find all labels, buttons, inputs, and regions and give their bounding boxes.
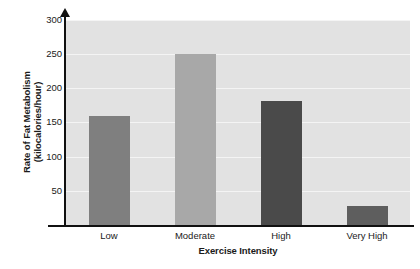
x-tick-label-very-high: Very High (324, 230, 410, 242)
bar-high[interactable] (261, 101, 302, 225)
x-axis-tick-labels: Low Moderate High Very High (66, 230, 410, 242)
x-tick-label-low: Low (66, 230, 152, 242)
x-tick-label-moderate: Moderate (152, 230, 238, 242)
y-axis-tick-labels: 300 250 200 150 100 50 (26, 0, 62, 269)
x-axis-title: Exercise Intensity (66, 245, 410, 256)
y-tick-label: 300 (26, 15, 62, 25)
y-tick-label: 200 (26, 83, 62, 93)
bar-very-high[interactable] (347, 206, 388, 225)
x-tick-label-high: High (238, 230, 324, 242)
y-tick-label: 250 (26, 49, 62, 59)
bar-slot (324, 20, 410, 225)
bar-moderate[interactable] (175, 54, 216, 225)
bars-layer (66, 20, 410, 225)
y-tick-label: 50 (26, 186, 62, 196)
bar-slot (238, 20, 324, 225)
plot-area (66, 20, 410, 225)
bar-chart: Rate of Fat Metabolism (kilocalories/hou… (0, 0, 420, 269)
y-axis-line (64, 14, 66, 226)
bar-low[interactable] (89, 116, 130, 225)
bar-slot (66, 20, 152, 225)
y-tick-label: 100 (26, 152, 62, 162)
bar-slot (152, 20, 238, 225)
y-tick-label: 150 (26, 117, 62, 127)
x-axis-line (48, 225, 414, 227)
